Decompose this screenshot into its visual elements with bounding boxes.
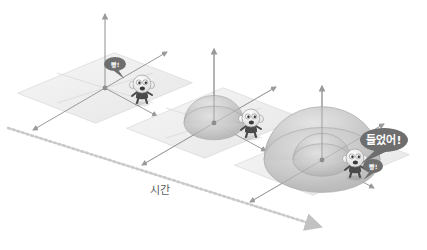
time-axis-label: 시간 bbox=[150, 184, 170, 197]
character-pupil bbox=[145, 82, 147, 84]
origin-point bbox=[212, 121, 217, 126]
diagram-canvas: 시간빵!들었어!빵! bbox=[0, 0, 427, 250]
bubble-text: 빵! bbox=[111, 61, 120, 69]
character-pupil bbox=[351, 156, 353, 158]
character-pupil bbox=[358, 156, 360, 158]
character-pupil bbox=[254, 116, 256, 118]
origin-point bbox=[103, 86, 108, 91]
diagram-svg: 시간빵!들었어!빵! bbox=[0, 0, 427, 250]
character-mouth bbox=[140, 86, 145, 90]
bang-bubble: 빵! bbox=[363, 159, 383, 180]
origin-point bbox=[320, 158, 325, 163]
character-pupil bbox=[247, 116, 249, 118]
bubble-text: 빵! bbox=[369, 163, 378, 171]
character-mouth bbox=[353, 160, 358, 164]
character-mouth bbox=[249, 120, 254, 124]
character-pupil bbox=[138, 82, 140, 84]
bubble-text: 들었어! bbox=[366, 133, 401, 147]
